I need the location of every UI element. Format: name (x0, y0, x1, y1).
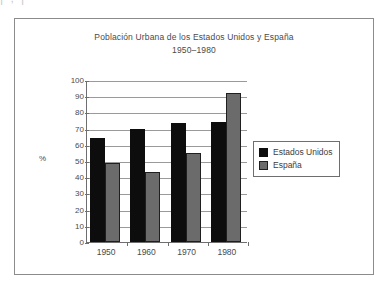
y-axis-tick-mark (85, 113, 89, 114)
y-axis-tick-label: 30 (58, 190, 84, 198)
y-axis-tick-label: 20 (58, 207, 84, 215)
y-axis-tick-mark (85, 211, 89, 212)
y-axis-tick-label: 100 (58, 77, 84, 85)
x-axis-tick-mark (168, 242, 169, 246)
y-axis-tick-label: 90 (58, 93, 84, 101)
plot-wrapper: % 1009080706050403020100 195019601970198… (15, 19, 375, 276)
bar-estados-unidos-1980 (211, 122, 226, 242)
legend-item: España (259, 159, 333, 172)
y-axis-tick-mark (85, 162, 89, 163)
y-axis-unit-label: % (39, 154, 46, 163)
bar-espana-1960 (145, 172, 160, 242)
bar-estados-unidos-1970 (171, 123, 186, 242)
y-axis-tick-label: 50 (58, 158, 84, 166)
x-axis-tick-label-1980: 1980 (207, 247, 247, 257)
y-axis-tick-mark (85, 130, 89, 131)
y-axis-tick-mark (85, 194, 89, 195)
x-axis-tick-mark (127, 242, 128, 246)
figure-frame: Población Urbana de los Estados Unidos y… (14, 18, 374, 275)
y-axis-tick-label: 0 (58, 239, 84, 247)
y-axis-tick-mark (85, 97, 89, 98)
bar-espana-1950 (105, 163, 120, 242)
gridline (87, 81, 247, 82)
y-axis-tick-mark (85, 178, 89, 179)
legend-swatch-icon (259, 161, 268, 170)
legend-item-label: España (273, 160, 302, 171)
gridline (87, 97, 247, 98)
gridline (87, 113, 247, 114)
x-axis-tick-label-1960: 1960 (126, 247, 166, 257)
x-axis-tick-mark (248, 242, 249, 246)
bar-espana-1970 (186, 153, 201, 242)
legend-item-label: Estados Unidos (273, 147, 333, 158)
y-axis-tick-label: 40 (58, 174, 84, 182)
y-axis-tick-mark (85, 243, 89, 244)
bar-espana-1980 (226, 93, 241, 242)
y-axis-tick-label: 10 (58, 223, 84, 231)
plot-area (86, 81, 247, 243)
x-axis-tick-label-1970: 1970 (167, 247, 207, 257)
y-axis-tick-mark (85, 81, 89, 82)
y-axis-tick-label: 80 (58, 109, 84, 117)
chart-legend: Estados UnidosEspaña (253, 141, 340, 177)
y-axis-tick-mark (85, 146, 89, 147)
legend-swatch-icon (259, 148, 268, 157)
legend-item: Estados Unidos (259, 146, 333, 159)
x-axis-tick-mark (208, 242, 209, 246)
y-axis-tick-mark (85, 227, 89, 228)
y-axis-tick-label: 60 (58, 142, 84, 150)
bar-estados-unidos-1960 (130, 129, 145, 242)
page-bleed-artifact: | ; | (0, 0, 388, 12)
y-axis-tick-label: 70 (58, 126, 84, 134)
x-axis-tick-label-1950: 1950 (86, 247, 126, 257)
bar-estados-unidos-1950 (90, 138, 105, 242)
cropped-text-above: | ; | (0, 0, 26, 5)
y-axis-tick-labels: 1009080706050403020100 (56, 81, 84, 243)
